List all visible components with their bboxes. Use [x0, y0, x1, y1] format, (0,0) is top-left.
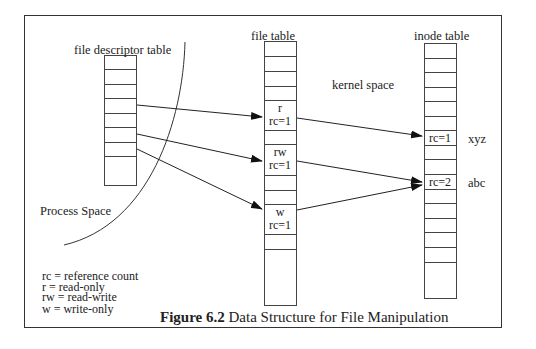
- inode-table-label: inode table: [414, 30, 469, 43]
- ref-count: rc=1: [264, 159, 296, 172]
- legend-item: rw = read-write: [42, 292, 138, 303]
- ref-count: rc=1: [264, 219, 296, 232]
- legend: rc = reference count r = read-only rw = …: [42, 271, 138, 314]
- process-space-label: Process Space: [40, 205, 111, 218]
- kernel-space-label: kernel space: [332, 79, 394, 92]
- fd-table-label: file descriptor table: [74, 44, 171, 57]
- file-entry-w: w rc=1: [264, 206, 296, 232]
- figure-title: Data Structure for File Manipulation: [225, 309, 449, 325]
- figure-number: Figure 6.2: [160, 309, 225, 325]
- file-entry-rw: rw rc=1: [264, 146, 296, 172]
- inode-entry-xyz-rc: rc=1: [424, 132, 456, 145]
- ref-count: rc=1: [264, 115, 296, 128]
- figure-caption: Figure 6.2 Data Structure for File Manip…: [160, 309, 448, 326]
- inode-entry-xyz-name: xyz: [468, 133, 486, 146]
- inode-entry-abc-rc: rc=2: [424, 176, 456, 189]
- file-entry-r: r rc=1: [264, 102, 296, 128]
- inode-entry-abc-name: abc: [468, 177, 485, 190]
- file-table-label: file table: [251, 30, 295, 43]
- legend-item: w = write-only: [42, 304, 138, 315]
